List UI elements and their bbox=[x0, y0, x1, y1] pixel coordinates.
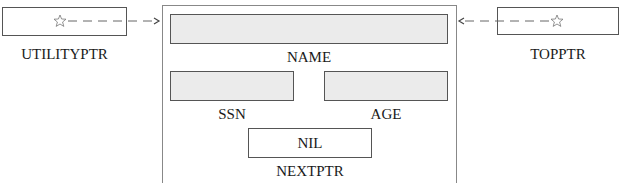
utilityptr-arrow bbox=[68, 18, 159, 24]
topptr-arrow bbox=[459, 18, 549, 24]
pointer-arrows bbox=[0, 0, 622, 183]
star-icon bbox=[54, 15, 66, 26]
star-icon bbox=[551, 15, 563, 26]
